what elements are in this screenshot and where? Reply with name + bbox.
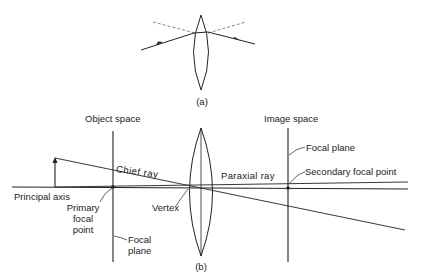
principal-axis-label: Principal axis — [14, 191, 70, 202]
paraxial-ray-label: Paraxial ray — [221, 170, 275, 181]
paraxial-ray — [55, 182, 408, 187]
optics-diagram — [0, 0, 421, 278]
leader-secondary-focal — [289, 172, 305, 184]
object-space-label: Object space — [85, 113, 140, 124]
secondary-focal-point-label: Secondary focal point — [305, 166, 396, 177]
incoming-ray — [141, 33, 194, 50]
image-space-label: Image space — [264, 113, 318, 124]
lens-a — [194, 15, 209, 90]
vertex-label: Vertex — [152, 202, 179, 213]
dashed-extension-left — [153, 22, 195, 33]
primary-focal-point-label-2: focal — [62, 213, 104, 224]
focal-plane-left-label-2: plane — [128, 245, 151, 256]
focal-plane-right-label: Focal plane — [306, 142, 355, 153]
figure-a — [141, 15, 255, 90]
focal-plane-left-label-1: Focal — [128, 234, 151, 245]
outgoing-ray — [208, 32, 255, 44]
secondary-focal-point-dot — [286, 186, 290, 190]
caption-b: (b) — [190, 261, 212, 272]
primary-focal-point-label-1: Primary — [62, 202, 104, 213]
primary-focal-point-label-3: point — [62, 224, 104, 235]
dashed-extension-right — [208, 22, 246, 33]
leader-focal-plane-right — [289, 147, 305, 155]
leader-primary-focal — [100, 188, 112, 202]
principal-axis-line — [12, 187, 408, 189]
object-arrow-head-icon — [53, 157, 58, 163]
caption-a: (a) — [191, 96, 213, 107]
leader-focal-plane-left — [114, 236, 127, 240]
